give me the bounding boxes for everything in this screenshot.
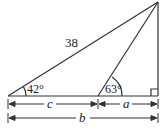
arrow-left-icon (99, 102, 105, 107)
hypotenuse-label: 38 (65, 35, 78, 50)
arrow-left-icon (9, 116, 15, 121)
arrow-right-icon (91, 102, 97, 107)
dim-c-label: c (47, 96, 53, 111)
angle-inner-label: 63° (105, 82, 122, 96)
arrow-left-icon (9, 102, 15, 107)
angle-arc-42-icon (23, 86, 26, 96)
triangle-diagram: 38 42° 63° c a b (0, 0, 168, 132)
dim-a-label: a (123, 96, 130, 111)
arrow-right-icon (151, 116, 157, 121)
angle-left-label: 42° (27, 82, 44, 96)
right-angle-icon (151, 89, 158, 96)
dim-b-label: b (79, 110, 86, 125)
arrow-right-icon (151, 102, 157, 107)
